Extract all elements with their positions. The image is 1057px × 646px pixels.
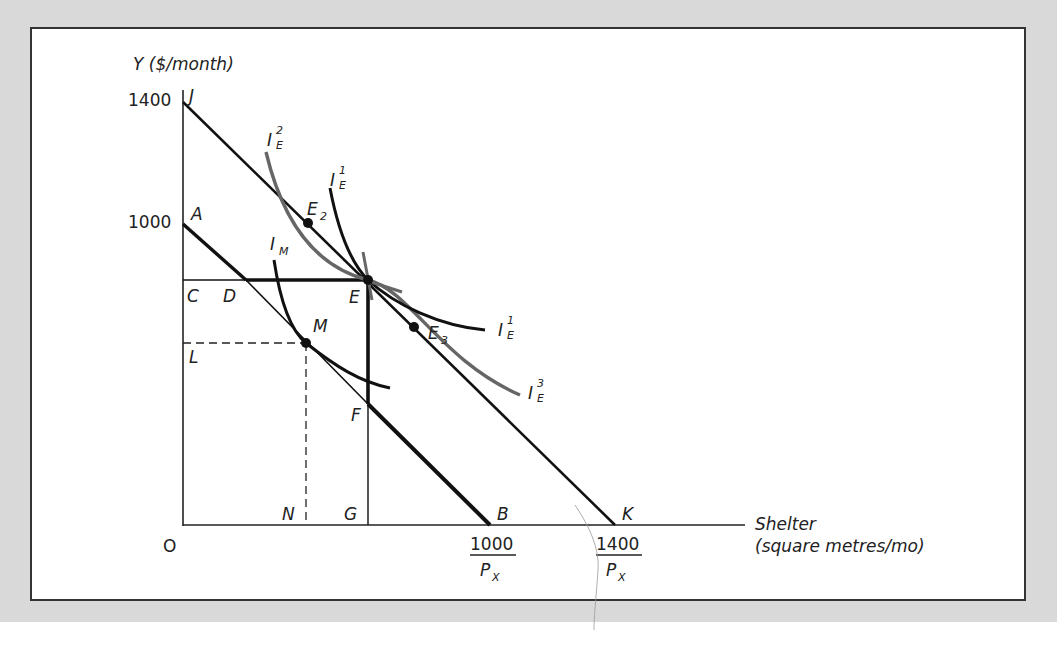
economics-diagram: Y ($/month) Shelter (square metres/mo) O… — [0, 0, 1057, 646]
label-j: J — [186, 86, 194, 106]
origin-label: O — [163, 536, 176, 556]
x-axis-label-line2: (square metres/mo) — [755, 536, 925, 556]
svg-text:2: 2 — [320, 210, 327, 223]
label-m: M — [313, 316, 328, 336]
svg-text:2: 2 — [276, 124, 283, 137]
svg-text:1: 1 — [507, 314, 514, 327]
label-g: G — [344, 504, 357, 524]
svg-text:M: M — [279, 245, 289, 258]
svg-text:E: E — [428, 323, 439, 343]
svg-text:I: I — [267, 130, 272, 150]
label-ie1-top: I 1 E — [330, 164, 346, 192]
svg-text:3: 3 — [537, 377, 544, 390]
budget-line-jk — [183, 102, 615, 525]
point-e3 — [409, 322, 419, 332]
label-c: C — [187, 286, 199, 306]
point-e2 — [303, 218, 313, 228]
indifference-curve-ie2-ie3 — [266, 152, 520, 395]
svg-text:I: I — [270, 234, 275, 254]
label-d: D — [223, 286, 236, 306]
budget-line-ad — [183, 224, 246, 280]
budget-line-fb — [368, 404, 490, 525]
label-ie1-right: I 1 E — [498, 314, 514, 342]
label-e: E — [349, 287, 360, 307]
label-l: L — [189, 347, 198, 367]
svg-text:E: E — [507, 329, 514, 342]
svg-text:E: E — [276, 139, 283, 152]
label-ie3: I 3 E — [528, 377, 544, 405]
label-im: I M — [270, 234, 289, 258]
svg-text:I: I — [330, 170, 335, 190]
y-axis-label: Y ($/month) — [133, 54, 234, 74]
label-ie2: I 2 E — [267, 124, 283, 152]
x-tick-1000-over-px: 1000 P X — [470, 534, 516, 584]
svg-text:1: 1 — [339, 164, 346, 177]
label-a: A — [190, 204, 203, 224]
svg-text:E: E — [339, 179, 346, 192]
x-axis-label-line1: Shelter — [755, 514, 817, 534]
label-b: B — [497, 504, 509, 524]
label-k: K — [622, 504, 635, 524]
svg-text:E: E — [307, 199, 318, 219]
svg-text:1400: 1400 — [596, 534, 639, 554]
svg-text:1000: 1000 — [470, 534, 513, 554]
svg-text:P: P — [606, 560, 617, 580]
indifference-curve-ie1 — [330, 188, 485, 330]
x-tick-1400-over-px: 1400 P X — [596, 534, 642, 584]
svg-text:X: X — [617, 571, 626, 584]
y-tick-1400: 1400 — [128, 90, 171, 110]
y-tick-1000: 1000 — [128, 212, 171, 232]
point-m — [301, 338, 311, 348]
svg-text:X: X — [491, 571, 500, 584]
label-f: F — [351, 405, 361, 425]
svg-text:E: E — [537, 392, 544, 405]
pencil-mark — [575, 505, 598, 630]
svg-text:3: 3 — [441, 334, 448, 347]
label-n: N — [282, 504, 295, 524]
svg-text:I: I — [528, 383, 533, 403]
point-e — [363, 275, 373, 285]
svg-text:I: I — [498, 320, 503, 340]
svg-text:P: P — [480, 560, 491, 580]
